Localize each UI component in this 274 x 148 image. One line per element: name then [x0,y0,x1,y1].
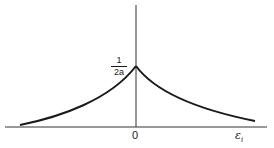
density-curve-right [136,66,255,121]
peak-value-label: 1 2a [111,56,127,77]
peak-denominator: 2a [111,68,127,77]
origin-tick-label: 0 [132,130,138,141]
x-axis-label-sub: i [241,136,243,144]
x-axis-label: εi [235,130,243,144]
laplace-density-diagram [0,0,274,148]
peak-numerator: 1 [111,56,127,65]
